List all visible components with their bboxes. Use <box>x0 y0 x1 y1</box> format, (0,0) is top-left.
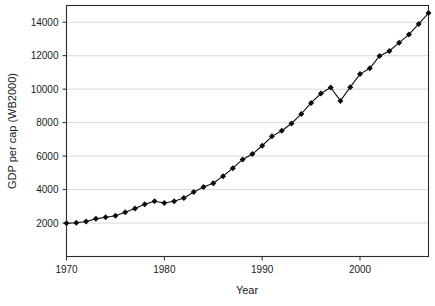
gdp-per-capita-line-chart: 2000400060008000100001200014000 19701980… <box>0 0 435 306</box>
data-point-1983 <box>191 189 197 195</box>
series-markers-gdp <box>64 10 432 226</box>
y-axis-tick-labels: 2000400060008000100001200014000 <box>31 17 59 229</box>
data-point-1981 <box>171 198 177 204</box>
x-axis-ticks <box>67 257 361 261</box>
x-tick-label-1970: 1970 <box>55 264 78 275</box>
gridlines <box>67 22 429 223</box>
data-point-1978 <box>142 201 148 207</box>
data-point-1970 <box>64 220 70 226</box>
data-point-1979 <box>152 198 158 204</box>
y-tick-label-14000: 14000 <box>31 17 59 28</box>
y-tick-label-12000: 12000 <box>31 50 59 61</box>
y-tick-label-10000: 10000 <box>31 84 59 95</box>
data-point-1974 <box>103 214 109 220</box>
x-tick-label-2000: 2000 <box>349 264 372 275</box>
data-point-1976 <box>122 209 128 215</box>
data-point-1975 <box>112 213 118 219</box>
data-point-1980 <box>161 200 167 206</box>
x-tick-label-1990: 1990 <box>251 264 274 275</box>
data-point-1973 <box>93 216 99 222</box>
data-point-1982 <box>181 195 187 201</box>
y-tick-label-4000: 4000 <box>36 184 59 195</box>
plot-frame <box>67 6 429 257</box>
y-axis-ticks <box>63 22 67 223</box>
data-point-1984 <box>200 184 206 190</box>
y-tick-label-6000: 6000 <box>36 151 59 162</box>
y-tick-label-2000: 2000 <box>36 218 59 229</box>
data-point-1971 <box>73 220 79 226</box>
series-line-gdp <box>67 13 429 223</box>
data-point-1977 <box>132 205 138 211</box>
chart-figure: 2000400060008000100001200014000 19701980… <box>0 0 435 306</box>
x-tick-label-1980: 1980 <box>153 264 176 275</box>
x-axis-title: Year <box>236 284 259 296</box>
y-axis-title: GDP per cap (WB2000) <box>6 73 18 189</box>
y-tick-label-8000: 8000 <box>36 117 59 128</box>
x-axis-tick-labels: 1970198019902000 <box>55 264 371 275</box>
data-point-1972 <box>83 219 89 225</box>
